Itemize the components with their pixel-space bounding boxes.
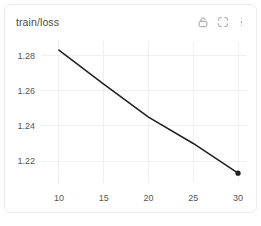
y-axis-tick-label: 1.22 [17,156,35,166]
lock-icon[interactable] [195,15,210,30]
more-options-icon[interactable] [235,15,248,30]
y-axis-tick-label: 1.28 [17,51,35,61]
header-actions [195,15,248,30]
page-title: train/loss [16,16,195,28]
dot [241,21,243,23]
dot [241,25,243,27]
line-chart: 1.281.261.241.221015202530 [5,39,258,214]
y-axis-tick-label: 1.24 [17,121,35,131]
y-axis-tick-label: 1.26 [17,86,35,96]
chart-panel: train/loss [4,4,257,213]
x-axis-tick-label: 30 [233,193,243,203]
x-axis-tick-label: 15 [99,193,109,203]
x-axis-tick-label: 10 [54,193,64,203]
panel-header: train/loss [5,5,256,39]
x-axis-tick-label: 20 [143,193,153,203]
expand-icon[interactable] [215,15,230,30]
series-end-marker [235,171,240,176]
chart-plot-area: 1.281.261.241.221015202530 [5,39,258,214]
dot [241,18,243,20]
x-axis-tick-label: 25 [188,193,198,203]
